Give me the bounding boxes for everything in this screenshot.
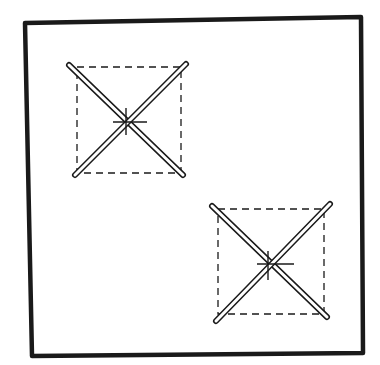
diagram-canvas	[0, 0, 380, 365]
